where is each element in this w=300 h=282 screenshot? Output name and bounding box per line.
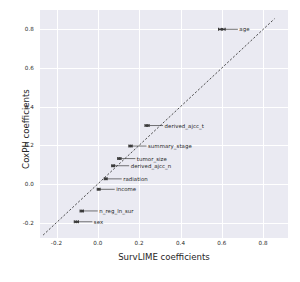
data-point-derived_ajcc_n: [112, 164, 115, 167]
point-label-summary_stage: summary_stage: [148, 143, 192, 149]
data-point-summary_stage: [129, 145, 132, 148]
data-point-sex: [75, 220, 78, 223]
point-label-income: income: [116, 186, 136, 192]
point-label-age: age: [239, 26, 249, 32]
data-point-radiation: [104, 177, 107, 180]
x-axis-title: SurvLIME coefficients: [40, 252, 288, 262]
data-point-income: [97, 188, 100, 191]
point-label-n_reg_ln_sur: n_reg_ln_sur: [99, 208, 133, 214]
point-label-sex: sex: [94, 219, 103, 225]
scatter-plot-figure: -0.20.00.20.40.60.8 -0.20.00.20.40.60.8 …: [0, 0, 300, 282]
point-label-derived_ajcc_t: derived_ajcc_t: [165, 123, 204, 129]
data-point-n_reg_ln_sur: [80, 209, 83, 212]
identity-reference-line: [43, 19, 274, 235]
data-points-group: [74, 28, 238, 223]
point-label-derived_ajcc_n: derived_ajcc_n: [131, 163, 172, 169]
plot-drawing-layer: [0, 0, 300, 282]
data-point-age: [220, 28, 223, 31]
identity-line: [43, 19, 274, 235]
point-label-tumor_size: tumor_size: [137, 156, 167, 162]
data-point-tumor_size: [118, 157, 121, 160]
point-label-radiation: radiation: [123, 176, 148, 182]
y-axis-title: CoxPH coefficients: [21, 49, 31, 209]
data-point-derived_ajcc_t: [146, 124, 149, 127]
